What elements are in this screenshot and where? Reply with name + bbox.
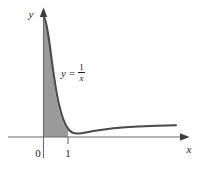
origin-label: 0 xyxy=(35,147,41,159)
figure-container: y x 0 1 y = 1 x xyxy=(0,0,202,174)
y-axis-arrow-icon xyxy=(40,8,47,18)
fraction-numerator: 1 xyxy=(78,63,85,72)
y-axis-label: y xyxy=(28,8,34,20)
fraction-denominator: x xyxy=(79,74,85,83)
x-axis-label: x xyxy=(186,143,192,155)
x-tick-label-1: 1 xyxy=(65,147,71,159)
area-under-curve-svg: y x 0 1 xyxy=(0,0,202,174)
equation-operator: = xyxy=(69,68,75,79)
curve-equation-label: y = 1 x xyxy=(61,63,85,84)
equation-lhs: y xyxy=(61,68,66,79)
equation-fraction: 1 x xyxy=(78,63,85,84)
x-axis-arrow-icon xyxy=(180,133,190,141)
